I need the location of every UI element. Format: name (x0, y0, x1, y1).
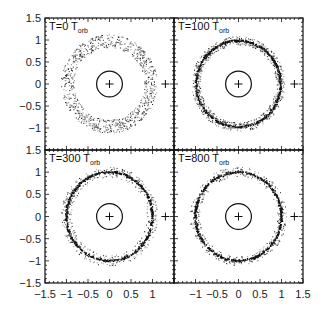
companion-marker-icon (161, 213, 169, 221)
center-marker-icon (235, 213, 243, 221)
companion-marker-icon (290, 213, 298, 221)
panel-label: T=0 Torb (49, 20, 88, 34)
x-tick-label: 1 (149, 288, 155, 300)
companion-marker-icon (290, 80, 298, 88)
y-tick-label: 0.5 (26, 188, 41, 200)
figure: T=0 TorbT=100 TorbT=300 TorbT=800 Torb 1… (0, 0, 326, 315)
x-tick-label: 0.5 (123, 288, 138, 300)
x-tick-label: −1.5 (34, 288, 56, 300)
center-marker-icon (106, 80, 114, 88)
center-marker-icon (106, 213, 114, 221)
y-tick-label: −0.5 (19, 233, 41, 245)
panel-label: T=300 Torb (49, 152, 100, 166)
y-tick-label: 1 (35, 34, 41, 46)
x-tick-label: −1 (189, 288, 202, 300)
panel-t100: T=100 Torb (174, 18, 303, 150)
y-tick-label: 0 (35, 211, 41, 223)
y-tick-label: 1 (35, 166, 41, 178)
y-tick-label: −1 (28, 122, 41, 134)
x-tick-label: 1 (278, 288, 284, 300)
y-tick-label: 0 (35, 78, 41, 90)
y-tick-label: −0.5 (19, 100, 41, 112)
y-tick-label: −1 (28, 255, 41, 267)
x-tick-label: −0.5 (206, 288, 228, 300)
x-tick-label: 0 (106, 288, 112, 300)
panel-t300: T=300 Torb (45, 150, 174, 283)
x-tick-label: −0.5 (77, 288, 99, 300)
y-tick-label: 1.5 (26, 12, 41, 24)
y-tick-label: 1.5 (26, 144, 41, 156)
panel-t800: T=800 Torb (174, 150, 303, 283)
panel-t0: T=0 Torb (45, 18, 174, 150)
panel-label: T=800 Torb (178, 152, 229, 166)
center-marker-icon (235, 80, 243, 88)
companion-marker-icon (161, 80, 169, 88)
x-tick-label: 0.5 (252, 288, 267, 300)
panel-label: T=100 Torb (178, 20, 229, 34)
y-tick-label: 0.5 (26, 56, 41, 68)
panel-grid: T=0 TorbT=100 TorbT=300 TorbT=800 Torb (45, 18, 303, 283)
x-tick-label: 0 (235, 288, 241, 300)
x-tick-label: 1.5 (295, 288, 310, 300)
x-tick-label: −1 (60, 288, 73, 300)
